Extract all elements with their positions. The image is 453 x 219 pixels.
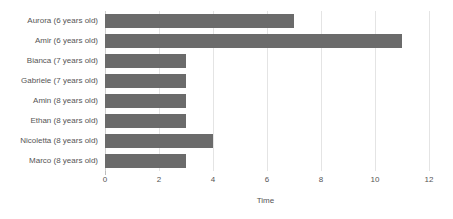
x-axis-tick-label: 10 bbox=[355, 175, 395, 184]
bar-row bbox=[105, 91, 429, 111]
y-axis-label: Aurora (6 years old) bbox=[0, 11, 98, 31]
bar-row bbox=[105, 31, 429, 51]
y-axis-label: Bianca (7 years old) bbox=[0, 51, 98, 71]
x-axis-tick-label: 4 bbox=[193, 175, 233, 184]
y-axis-label: Nicoletta (8 years old) bbox=[0, 131, 98, 151]
bar bbox=[105, 34, 402, 48]
bar bbox=[105, 114, 186, 128]
bar-row bbox=[105, 151, 429, 171]
x-axis-tick-label: 8 bbox=[301, 175, 341, 184]
x-axis-tick-label: 12 bbox=[409, 175, 449, 184]
x-axis-tick-mark bbox=[105, 171, 106, 175]
bar-row bbox=[105, 111, 429, 131]
bar bbox=[105, 154, 186, 168]
gridline bbox=[429, 11, 430, 171]
bar-row bbox=[105, 71, 429, 91]
y-axis-label: Amir (6 years old) bbox=[0, 31, 98, 51]
bar bbox=[105, 54, 186, 68]
plot-area bbox=[105, 11, 429, 171]
bar bbox=[105, 14, 294, 28]
bar-row bbox=[105, 131, 429, 151]
x-axis-title: Time bbox=[0, 196, 453, 205]
x-axis-tick-label: 0 bbox=[85, 175, 125, 184]
x-axis-tick-label: 6 bbox=[247, 175, 287, 184]
bar bbox=[105, 74, 186, 88]
y-axis-label: Marco (8 years old) bbox=[0, 151, 98, 171]
bar-chart: Aurora (6 years old) Amir (6 years old) … bbox=[0, 0, 453, 219]
y-axis-label: Ethan (8 years old) bbox=[0, 111, 98, 131]
bar-row bbox=[105, 11, 429, 31]
bar bbox=[105, 134, 213, 148]
y-axis-label: Gabriele (7 years old) bbox=[0, 71, 98, 91]
x-axis-title-text: Time bbox=[257, 196, 274, 205]
bar-row bbox=[105, 51, 429, 71]
bar bbox=[105, 94, 186, 108]
x-axis-tick-label: 2 bbox=[139, 175, 179, 184]
y-axis-label: Amin (8 years old) bbox=[0, 91, 98, 111]
